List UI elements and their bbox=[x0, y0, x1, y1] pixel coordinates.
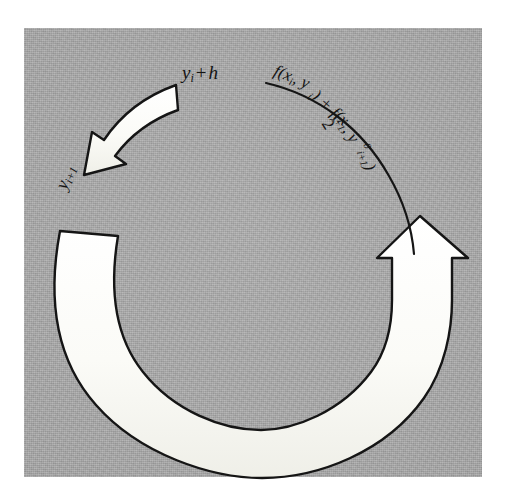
figure-root: yi+h yi+1 f(xi, y i) + f(x i+1, y 0i+1) … bbox=[0, 0, 506, 501]
predictor-arrow-body bbox=[54, 216, 468, 478]
fraction-bar bbox=[266, 83, 414, 254]
predictor-arrow bbox=[54, 216, 468, 478]
corrector-arrow bbox=[84, 85, 178, 175]
corrector-arrow-body bbox=[84, 85, 178, 175]
cycle-diagram bbox=[0, 0, 506, 501]
